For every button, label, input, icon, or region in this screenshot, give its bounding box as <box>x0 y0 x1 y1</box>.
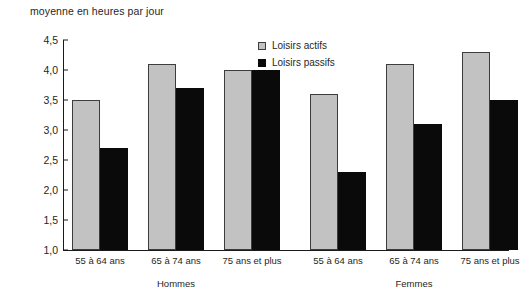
y-axis-tick-label: 3,5 <box>43 94 58 106</box>
x-axis-category-label: 55 à 64 ans <box>313 255 363 266</box>
legend-swatch-actifs <box>258 42 266 50</box>
y-axis-tick-label: 4,5 <box>43 34 58 46</box>
x-axis-group-label: Hommes <box>157 278 195 289</box>
bar <box>252 70 280 250</box>
legend-item: Loisirs actifs <box>258 38 335 53</box>
y-axis-tick-label: 1,0 <box>43 244 58 256</box>
y-axis-tick-label: 4,0 <box>43 64 58 76</box>
bar <box>100 148 128 250</box>
legend-label: Loisirs actifs <box>272 40 327 51</box>
legend-swatch-passifs <box>258 59 266 67</box>
x-axis-category-label: 65 à 74 ans <box>151 255 201 266</box>
legend-item: Loisirs passifs <box>258 55 335 70</box>
x-axis-category-label: 55 à 64 ans <box>75 255 125 266</box>
bar <box>462 52 490 250</box>
chart-legend: Loisirs actifsLoisirs passifs <box>258 38 335 72</box>
legend-label: Loisirs passifs <box>272 57 335 68</box>
y-axis-tick-label: 2,0 <box>43 184 58 196</box>
bar <box>338 172 366 250</box>
y-axis-tick-label: 2,5 <box>43 154 58 166</box>
bar <box>490 100 518 250</box>
bar <box>310 94 338 250</box>
y-axis-tick-labels: 1,01,52,02,53,03,54,04,5 <box>24 0 58 293</box>
bar <box>148 64 176 250</box>
bar <box>414 124 442 250</box>
y-axis-tick-label: 1,5 <box>43 214 58 226</box>
x-axis-group-label: Femmes <box>396 278 433 289</box>
bar <box>386 64 414 250</box>
bar <box>224 70 252 250</box>
x-axis-category-label: 75 ans et plus <box>460 255 519 266</box>
y-axis-tick-label: 3,0 <box>43 124 58 136</box>
bar <box>72 100 100 250</box>
x-axis-line <box>63 250 509 251</box>
x-axis-category-label: 65 à 74 ans <box>389 255 439 266</box>
bar <box>176 88 204 250</box>
x-axis-category-label: 75 ans et plus <box>222 255 281 266</box>
